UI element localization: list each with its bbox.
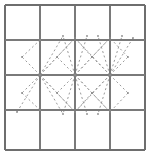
pattern-edge [75,36,87,75]
pattern-node [121,35,123,37]
pattern-node [97,35,99,37]
pattern-node [97,113,99,115]
pattern-edge [40,36,63,75]
pattern-node [127,92,129,94]
pattern-node [132,37,134,39]
pattern-edge [110,38,128,57]
pattern-edge [40,75,63,114]
pattern-edge [40,75,57,93]
pattern-edge [98,75,110,114]
pattern-node [127,56,129,58]
pattern-node [74,111,76,113]
pattern-edge [22,93,40,110]
pattern-node [109,37,111,39]
grid-layer [5,5,145,150]
pattern-edge [22,40,40,57]
pattern-node [86,113,88,115]
pattern-edge [22,75,40,93]
pattern-node [56,92,58,94]
pattern-edge [22,57,40,75]
figure-canvas [0,0,150,158]
pattern-node [91,56,93,58]
pattern-edge [110,36,122,75]
pattern-edge [63,36,75,75]
lattice-diagram [0,0,150,158]
pattern-edge [110,75,128,93]
pattern-edge [110,93,128,112]
pattern-edge [98,36,110,75]
pattern-node [21,56,23,58]
pattern-node [21,92,23,94]
pattern-node [62,35,64,37]
pattern-node [39,39,41,41]
pattern-edge [63,75,75,114]
pattern-node [91,92,93,94]
pattern-node [62,113,64,115]
pattern-node [74,37,76,39]
pattern-node [39,109,41,111]
hub-center-node [74,74,77,77]
pattern-edge [110,38,133,75]
pattern-node [109,111,111,113]
pattern-node [16,111,18,113]
pattern-edge [40,57,57,75]
pattern-node [86,35,88,37]
pattern-edge [75,75,87,114]
pattern-node [56,56,58,58]
hub-left-node [39,74,42,77]
pattern-node [109,109,111,111]
hub-right-node [109,74,112,77]
